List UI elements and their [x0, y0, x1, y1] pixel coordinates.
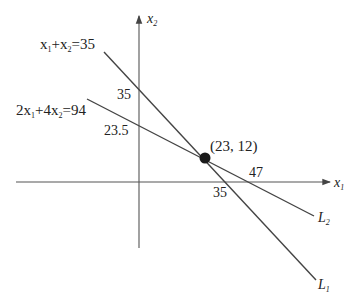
x-intercept-l2: 47: [249, 166, 263, 180]
equation-l2: 2x1+4x2=94: [16, 103, 86, 120]
intersection-label: (23, 12): [210, 139, 258, 154]
y-intercept-l2: 23.5: [104, 124, 129, 138]
x-axis-label: x1: [334, 176, 344, 192]
y-axis-label: x2: [147, 12, 157, 28]
equation-l1: x1+x2=35: [40, 37, 95, 54]
x-intercept-l1: 35: [213, 186, 227, 200]
intersection-point: [200, 153, 211, 164]
line-label-l1: L1: [318, 278, 330, 294]
line-label-l2: L2: [318, 211, 330, 227]
line-l1: [104, 52, 316, 280]
linear-program-diagram: x2 x1 x1+x2=35 2x1+4x2=94 35 23.5 35 47 …: [0, 0, 355, 306]
y-intercept-l1: 35: [117, 88, 131, 102]
